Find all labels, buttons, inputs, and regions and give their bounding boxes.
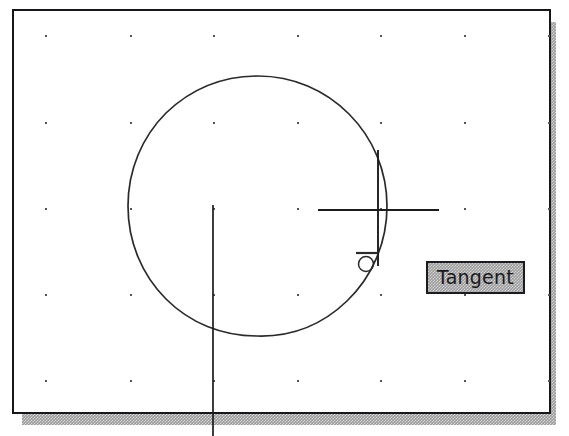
drawing-canvas[interactable]: Tangent (14, 11, 549, 412)
grid-dot (548, 380, 550, 382)
grid-dot (464, 380, 466, 382)
grid-dot (130, 35, 132, 37)
grid-dot (45, 208, 47, 210)
circle-entity[interactable] (128, 76, 387, 336)
grid-dot (297, 35, 299, 37)
grid-dot (548, 294, 550, 296)
geometry-layer (0, 0, 569, 436)
grid-dot (548, 35, 550, 37)
grid-dot (380, 35, 382, 37)
grid-dot (213, 208, 215, 210)
grid-dot (45, 35, 47, 37)
grid-dot (213, 35, 215, 37)
tangent-snap-circle-icon (359, 257, 374, 272)
drawing-window[interactable]: Tangent (12, 9, 551, 414)
cad-screenshot: Tangent (0, 0, 569, 436)
grid-dot (45, 380, 47, 382)
grid-dot (213, 294, 215, 296)
grid-dot (130, 208, 132, 210)
grid-dot (380, 122, 382, 124)
grid-dot (130, 380, 132, 382)
grid-dot (45, 122, 47, 124)
grid-dot (380, 294, 382, 296)
grid-dot (464, 294, 466, 296)
grid-dot (213, 122, 215, 124)
grid-dot (380, 380, 382, 382)
grid-dot (297, 294, 299, 296)
tangent-snap-marker[interactable] (356, 253, 378, 272)
grid-dot (464, 122, 466, 124)
grid-dot (548, 208, 550, 210)
grid-dot (130, 294, 132, 296)
grid-dot (380, 208, 382, 210)
grid-dot (213, 380, 215, 382)
grid-dot (548, 122, 550, 124)
grid-dot (45, 294, 47, 296)
osnap-tooltip-label: Tangent (437, 268, 514, 287)
grid-dot (464, 208, 466, 210)
grid-dot (130, 122, 132, 124)
grid-dot (464, 35, 466, 37)
grid-dot (297, 208, 299, 210)
grid-dot (297, 122, 299, 124)
crosshair-cursor[interactable] (318, 150, 439, 266)
grid-dot (297, 380, 299, 382)
osnap-tooltip: Tangent (426, 261, 525, 294)
